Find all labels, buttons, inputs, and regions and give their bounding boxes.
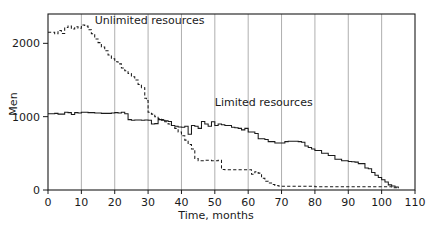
xtick-label-90: 90 xyxy=(341,196,355,209)
xtick-label-100: 100 xyxy=(371,196,392,209)
ytick-label-0: 0 xyxy=(33,184,40,197)
xtick-label-60: 60 xyxy=(241,196,255,209)
series-label-1: Limited resources xyxy=(215,96,313,109)
xtick-label-0: 0 xyxy=(45,196,52,209)
ytick-label-2000: 2000 xyxy=(12,37,40,50)
xtick-label-20: 20 xyxy=(108,196,122,209)
series-label-0: Unlimited resources xyxy=(95,14,205,27)
xtick-label-80: 80 xyxy=(308,196,322,209)
x-axis-title: Time, months xyxy=(177,209,254,222)
chart-background xyxy=(0,0,436,227)
xtick-label-40: 40 xyxy=(174,196,188,209)
xtick-label-10: 10 xyxy=(74,196,88,209)
men-vs-time-step-chart: 0102030405060708090100110010002000 Unlim… xyxy=(0,0,436,227)
xtick-label-30: 30 xyxy=(141,196,155,209)
y-axis-title: Men xyxy=(7,92,20,115)
chart-container: 0102030405060708090100110010002000 Unlim… xyxy=(0,0,436,227)
xtick-label-70: 70 xyxy=(275,196,289,209)
xtick-label-110: 110 xyxy=(405,196,426,209)
xtick-label-50: 50 xyxy=(208,196,222,209)
